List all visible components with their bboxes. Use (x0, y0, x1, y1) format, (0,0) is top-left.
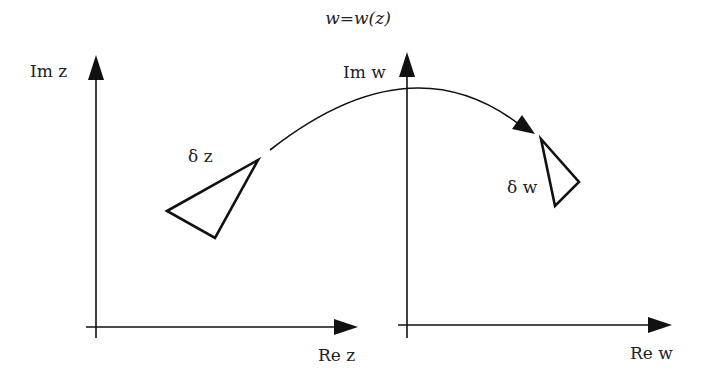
conformal-mapping-diagram: w=w(z) Im z Re z δ z Im w Re w δ w (0, 0, 715, 388)
z-plane: Im z Re z δ z (30, 55, 358, 365)
w-real-axis-label: Re w (630, 343, 673, 363)
z-real-axis-label: Re z (318, 345, 355, 365)
w-imag-axis-label: Im w (343, 62, 386, 82)
mapping-title: w=w(z) (325, 8, 391, 28)
w-element-label: δ w (507, 177, 538, 197)
z-imag-axis-label: Im z (30, 61, 67, 81)
w-triangle-element (541, 139, 579, 206)
w-real-axis-arrowhead-icon (648, 317, 672, 333)
w-plane: Im w Re w δ w (343, 52, 673, 363)
z-triangle-element (167, 160, 258, 238)
mapping-arc (270, 88, 520, 150)
z-element-label: δ z (188, 146, 213, 166)
mapping-arrowhead-icon (512, 115, 535, 134)
z-imag-axis-arrowhead-icon (88, 55, 104, 80)
z-real-axis-arrowhead-icon (334, 319, 358, 335)
w-imag-axis-arrowhead-icon (399, 52, 415, 77)
